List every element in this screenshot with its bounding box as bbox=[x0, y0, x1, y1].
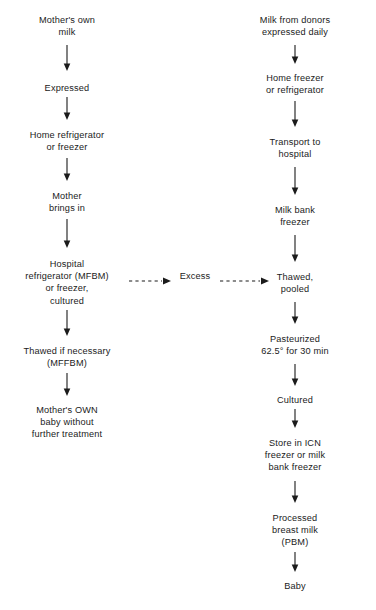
node-processed-breast-milk: Processed breast milk (PBM) bbox=[220, 512, 370, 549]
arrow-store-to-processed-breast-milk bbox=[290, 481, 301, 504]
node-baby: Baby bbox=[220, 580, 370, 592]
node-thawed-pooled: Thawed, pooled bbox=[220, 271, 370, 295]
excess-label: Excess bbox=[165, 270, 225, 282]
arrow-pasteurized-to-cultured bbox=[290, 364, 301, 387]
node-cultured: Cultured bbox=[220, 394, 370, 406]
node-milk-from-donors: Milk from donors expressed daily bbox=[220, 14, 370, 38]
arrow-expressed-to-home-refrigerator bbox=[62, 97, 73, 121]
arrow-thawed-to-mothers-own-baby bbox=[62, 373, 73, 397]
milk-handling-flowchart: Mother's own milk Expressed Home refrige… bbox=[0, 0, 376, 610]
arrow-mother-brings-in-to-hospital-refrigerator bbox=[62, 219, 73, 249]
node-mothers-own-baby: Mother's OWN baby without further treatm… bbox=[0, 404, 142, 441]
node-expressed: Expressed bbox=[0, 82, 142, 94]
node-transport-to-hospital: Transport to hospital bbox=[220, 136, 370, 160]
node-store-in-icn: Store in ICN freezer or milk bank freeze… bbox=[220, 437, 370, 474]
arrow-donors-to-home-freezer bbox=[290, 45, 301, 65]
node-milk-bank-freezer: Milk bank freezer bbox=[220, 204, 370, 228]
node-mothers-own-milk: Mother's own milk bbox=[0, 14, 142, 38]
arrow-processed-breast-milk-to-baby bbox=[290, 552, 301, 573]
node-home-freezer-or-refrigerator: Home freezer or refrigerator bbox=[220, 72, 370, 96]
arrow-cultured-to-store-in-icn bbox=[290, 409, 301, 429]
arrow-home-refrigerator-to-mother-brings-in bbox=[62, 158, 73, 182]
node-mother-brings-in: Mother brings in bbox=[0, 190, 142, 214]
arrow-thawed-pooled-to-pasteurized bbox=[290, 302, 301, 325]
node-home-refrigerator-or-freezer: Home refrigerator or freezer bbox=[0, 129, 142, 153]
arrow-milk-to-expressed bbox=[62, 45, 73, 72]
arrow-transport-to-milk-bank-freezer bbox=[290, 167, 301, 196]
arrow-home-freezer-to-transport bbox=[290, 101, 301, 128]
node-thawed-if-necessary: Thawed if necessary (MFFBM) bbox=[0, 345, 142, 369]
node-hospital-refrigerator: Hospital refrigerator (MFBM) or freezer,… bbox=[0, 258, 142, 307]
node-pasteurized: Pasteurized 62.5° for 30 min bbox=[220, 333, 370, 357]
arrow-milk-bank-freezer-to-thawed-pooled bbox=[290, 235, 301, 263]
arrow-hospital-refrigerator-to-thawed-if-necessary bbox=[62, 310, 73, 337]
